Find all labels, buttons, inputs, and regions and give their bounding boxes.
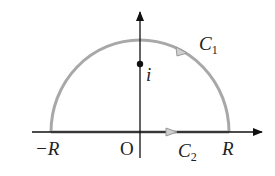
label-origin: O (120, 138, 134, 159)
contour-diagram: i C1 C2 −R R O (0, 0, 275, 176)
direction-arrow-c2-icon (166, 128, 177, 136)
label-minus-r: −R (35, 138, 60, 159)
label-r: R (221, 138, 234, 159)
label-c2: C2 (178, 140, 197, 164)
label-pole-i: i (146, 64, 151, 85)
label-c1: C1 (199, 33, 218, 57)
pole-point-i (137, 61, 143, 67)
